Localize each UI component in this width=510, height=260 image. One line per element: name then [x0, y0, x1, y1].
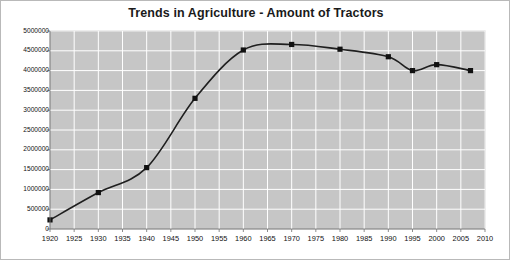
x-axis-tick-label: 1995 — [400, 234, 426, 243]
x-axis-tick-label: 1970 — [279, 234, 305, 243]
x-axis-tick-label: 1950 — [182, 234, 208, 243]
x-axis-tick-label: 1945 — [158, 234, 184, 243]
x-axis-tick-label: 1960 — [230, 234, 256, 243]
x-axis-tick-label: 2010 — [472, 234, 498, 243]
x-axis-tick-label: 1980 — [327, 234, 353, 243]
x-axis-tick-label: 2000 — [424, 234, 450, 243]
x-axis-tick-label: 1930 — [85, 234, 111, 243]
chart-container: Trends in Agriculture - Amount of Tracto… — [0, 0, 510, 260]
x-axis-tick-label: 1955 — [206, 234, 232, 243]
x-axis-tick-label: 1975 — [303, 234, 329, 243]
x-axis-tick-label: 1935 — [110, 234, 136, 243]
x-axis-tick-label: 1965 — [255, 234, 281, 243]
x-axis-tick-labels: 1920192519301935194019451950195519601965… — [1, 1, 510, 260]
x-axis-tick-label: 1985 — [351, 234, 377, 243]
x-axis-tick-label: 1925 — [61, 234, 87, 243]
x-axis-tick-label: 1920 — [37, 234, 63, 243]
x-axis-tick-label: 1940 — [134, 234, 160, 243]
x-axis-tick-label: 2005 — [448, 234, 474, 243]
x-axis-tick-label: 1990 — [375, 234, 401, 243]
